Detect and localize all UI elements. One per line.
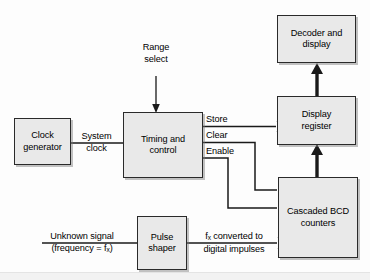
label-unknown-signal-freq-pre: (frequency = f [51,243,106,253]
block-display-register[interactable]: Display register [277,96,356,145]
label-system-clock-line2: clock [86,143,106,153]
label-clear: Clear [206,130,227,142]
label-unknown-signal: Unknown signal (frequency = fx) [32,231,132,255]
register-to-decoder-arrow [311,63,323,96]
frequency-counter-block-diagram: Clock generator Timing and control Decod… [0,0,370,280]
block-clock-generator-label: Clock generator [23,130,61,153]
bcd-to-register-arrow [311,144,323,177]
block-clock-generator[interactable]: Clock generator [14,118,71,165]
label-system-clock-line1: System [81,131,111,141]
block-clock-generator-line1: Clock [31,130,53,140]
label-range-select: Range select [131,42,181,65]
bottom-edge-band [0,272,370,280]
block-cascaded-bcd-counters-line2: counters [301,218,335,228]
block-cascaded-bcd-counters-label: Cascaded BCD counters [287,206,349,229]
label-enable: Enable [206,146,234,158]
block-cascaded-bcd-counters-line1: Cascaded BCD [287,206,349,216]
label-fx-converted-line1: fx converted to [205,231,262,241]
label-store: Store [206,114,227,126]
block-timing-and-control-line2: control [150,145,177,155]
block-cascaded-bcd-counters[interactable]: Cascaded BCD counters [278,177,358,258]
block-pulse-shaper-label: Pulse shaper [148,232,176,255]
block-decoder-and-display-line2: display [303,39,331,49]
block-pulse-shaper-line2: shaper [148,243,176,253]
label-fx-converted-rest: converted to [211,231,263,241]
label-unknown-signal-line1: Unknown signal [50,231,113,241]
block-pulse-shaper[interactable]: Pulse shaper [137,216,187,270]
block-decoder-and-display-label: Decoder and display [291,28,343,51]
block-display-register-line2: register [302,121,332,131]
block-display-register-label: Display register [302,109,332,132]
block-timing-and-control[interactable]: Timing and control [123,112,203,178]
block-clock-generator-line2: generator [23,142,61,152]
label-unknown-signal-line2: (frequency = fx) [51,243,112,253]
block-pulse-shaper-line1: Pulse [151,232,173,242]
label-unknown-signal-freq-post: ) [110,243,113,253]
label-fx-converted: fx converted to digital impulses [191,231,277,255]
block-timing-and-control-line1: Timing and [141,134,185,144]
label-range-select-line2: select [144,54,167,64]
block-display-register-line1: Display [302,109,331,119]
label-system-clock: System clock [73,131,120,154]
block-decoder-and-display-line1: Decoder and [291,28,343,38]
block-timing-and-control-label: Timing and control [141,134,185,157]
label-digital-impulses: digital impulses [203,244,264,254]
enable-line [203,158,277,208]
range-select-arrow [152,76,160,113]
block-decoder-and-display[interactable]: Decoder and display [277,15,356,63]
label-range-select-line1: Range [143,42,170,52]
